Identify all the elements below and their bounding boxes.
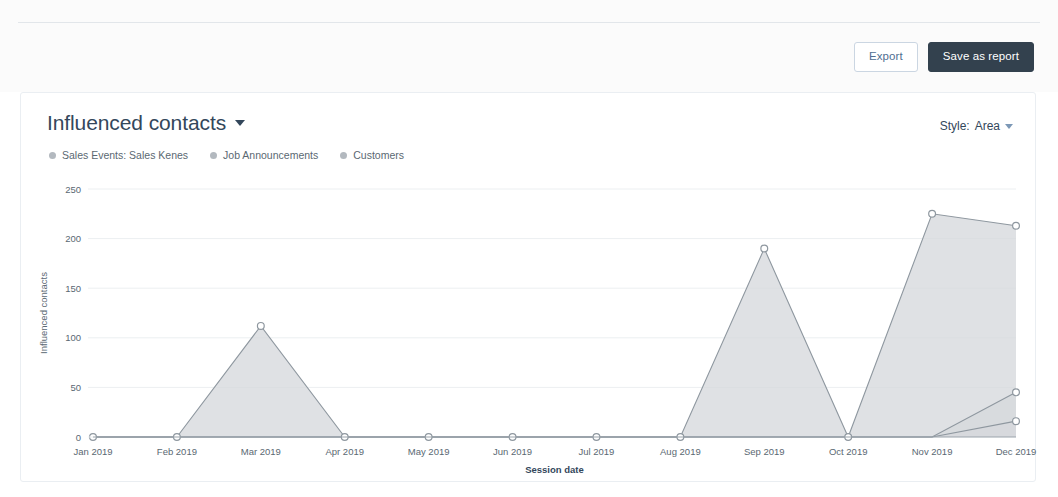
- data-point: [929, 210, 936, 217]
- data-point: [761, 245, 768, 252]
- chart-series-areas: [93, 214, 1016, 437]
- y-tick-label: 100: [65, 332, 81, 343]
- x-tick-label: Aug 2019: [660, 446, 701, 457]
- y-tick-label: 250: [65, 184, 81, 195]
- x-tick-label: Apr 2019: [325, 446, 364, 457]
- x-tick-label: Jul 2019: [578, 446, 614, 457]
- y-axis-title: Influenced contacts: [38, 272, 49, 354]
- toolbar-divider: [18, 22, 1040, 23]
- x-tick-label: May 2019: [408, 446, 450, 457]
- x-axis-ticks: Jan 2019Feb 2019Mar 2019Apr 2019May 2019…: [73, 446, 1036, 457]
- y-tick-label: 50: [70, 382, 81, 393]
- x-tick-label: Dec 2019: [996, 446, 1037, 457]
- x-tick-label: Jun 2019: [493, 446, 532, 457]
- y-tick-label: 0: [76, 432, 81, 443]
- data-point: [1013, 418, 1020, 425]
- top-toolbar: Export Save as report: [0, 0, 1058, 92]
- chart-svg: 050100150200250 Jan 2019Feb 2019Mar 2019…: [21, 93, 1037, 483]
- toolbar-actions: Export Save as report: [854, 42, 1034, 72]
- x-tick-label: Nov 2019: [912, 446, 953, 457]
- x-tick-label: Sep 2019: [744, 446, 785, 457]
- chart-plot-area: 050100150200250 Jan 2019Feb 2019Mar 2019…: [21, 93, 1037, 483]
- data-point: [257, 323, 264, 330]
- y-tick-label: 150: [65, 283, 81, 294]
- series-area-1: [93, 214, 1016, 437]
- data-point: [1013, 222, 1020, 229]
- y-tick-label: 200: [65, 233, 81, 244]
- x-tick-label: Feb 2019: [157, 446, 197, 457]
- data-point: [1013, 389, 1020, 396]
- save-as-report-button[interactable]: Save as report: [928, 42, 1034, 72]
- chart-card: Influenced contacts Style: Area Sales Ev…: [20, 92, 1036, 482]
- x-tick-label: Oct 2019: [829, 446, 868, 457]
- x-tick-label: Mar 2019: [241, 446, 281, 457]
- y-axis-ticks: 050100150200250: [65, 184, 93, 443]
- x-tick-label: Jan 2019: [73, 446, 112, 457]
- x-axis-title: Session date: [525, 464, 584, 475]
- export-button[interactable]: Export: [854, 42, 918, 72]
